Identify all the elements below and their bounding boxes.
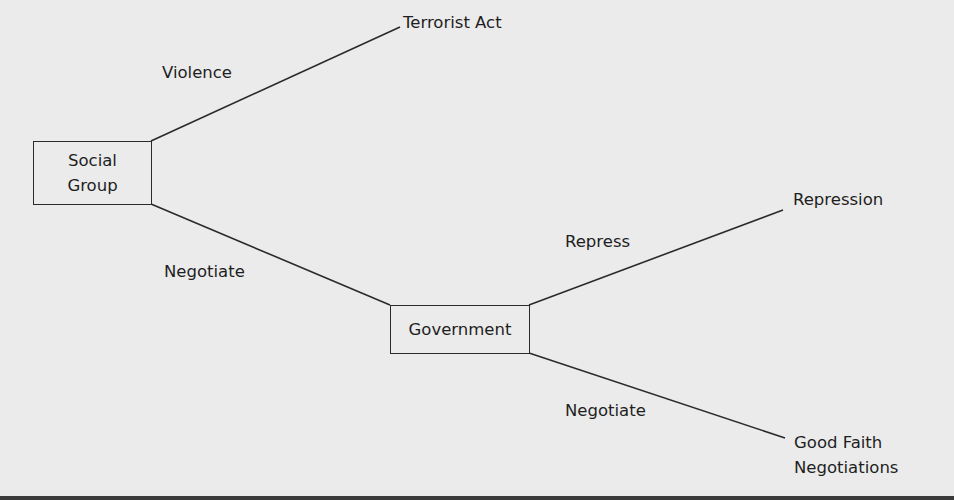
node-social-group-line2: Group: [67, 173, 117, 198]
node-social-group: Social Group: [33, 141, 152, 205]
node-social-group-line1: Social: [68, 148, 117, 173]
node-government-label: Government: [409, 317, 512, 342]
diagram-connectors: [0, 0, 954, 500]
edge-label-repress: Repress: [565, 229, 630, 254]
edge-label-negotiate-2: Negotiate: [565, 398, 646, 423]
outcome-good-faith-line1: Good Faith: [794, 430, 882, 455]
edge-label-violence: Violence: [162, 60, 232, 85]
edge-label-negotiate-1: Negotiate: [164, 259, 245, 284]
edge-repress-line: [529, 210, 783, 305]
edge-negotiate-line-2: [529, 353, 785, 438]
outcome-terrorist-act: Terrorist Act: [403, 10, 502, 35]
edge-negotiate-line-1: [151, 204, 390, 305]
outcome-good-faith-line2: Negotiations: [794, 455, 898, 480]
outcome-repression: Repression: [793, 187, 883, 212]
bottom-border-rule: [0, 496, 954, 500]
node-government: Government: [390, 305, 530, 354]
